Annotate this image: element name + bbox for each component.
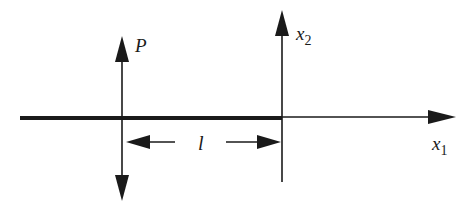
x1-axis-arrowhead-icon (428, 110, 456, 124)
force-p-down-arrowhead-icon (115, 175, 129, 201)
length-label: l (198, 132, 204, 154)
x2-axis-label: x2 (295, 23, 311, 48)
length-right-arrowhead-icon (257, 135, 281, 149)
beam-diagram: P x2 x1 l (0, 0, 468, 208)
x1-axis-label: x1 (431, 133, 447, 158)
force-p-up-arrowhead-icon (115, 36, 129, 62)
force-label: P (134, 35, 147, 56)
x2-axis-arrowhead-icon (275, 10, 289, 36)
length-left-arrowhead-icon (126, 135, 150, 149)
